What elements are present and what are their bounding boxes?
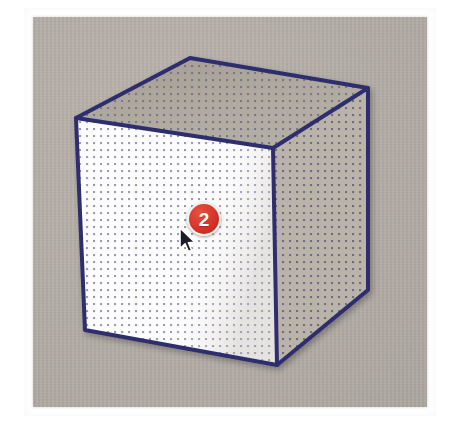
mouse-pointer [178, 227, 200, 257]
drawing-canvas [33, 17, 427, 407]
cursor-arrow-icon [178, 227, 200, 257]
screenshot-root: 2 [0, 0, 452, 429]
step-marker-number: 2 [199, 210, 210, 229]
